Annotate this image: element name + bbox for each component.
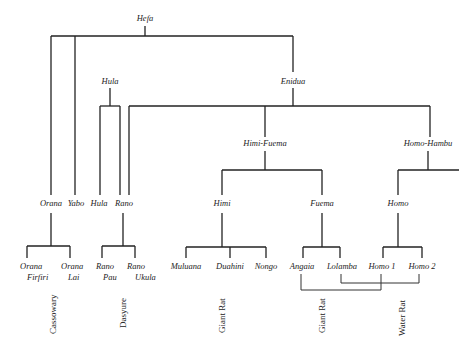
leaf-rano-pau-line1: Rano [95, 261, 114, 271]
group-label-giant-rat-2: Giant Rat [317, 298, 327, 333]
node-homo: Homo [387, 198, 409, 208]
group-label-water-rat: Water Rat [397, 299, 407, 336]
leaf-orana-firfiri-line2: Firfiri [26, 272, 49, 282]
node-hefa: Hefa [136, 13, 154, 23]
node-homo-hambu: Homo-Hambu [403, 138, 453, 148]
fuema-connectors [303, 213, 340, 258]
node-enidua: Enidua [280, 76, 306, 86]
leaf-rano-pau-line2: Pau [102, 272, 117, 282]
group-label-dasyure: Dasyure [118, 298, 128, 328]
node-hula: Hula [90, 198, 108, 208]
node-yabo: Yabo [68, 198, 85, 208]
leaf-muluana: Muluana [170, 261, 202, 271]
hula-connectors [100, 88, 120, 195]
leaf-rano-ukula-line1: Rano [126, 261, 145, 271]
leaf-homo-2: Homo 2 [407, 261, 436, 271]
leaf-lolamba: Lolamba [326, 261, 357, 271]
leaf-nongo: Nongo [254, 261, 278, 271]
group-label-giant-rat-1: Giant Rat [217, 298, 227, 333]
leaf-angaia: Angaia [289, 261, 315, 271]
homo-connectors [383, 213, 422, 258]
node-orana: Orana [40, 198, 62, 208]
node-rano: Rano [114, 198, 133, 208]
orana-connectors [27, 213, 70, 258]
node-himi: Himi [213, 198, 232, 208]
leaf-duahini: Duahini [215, 261, 245, 271]
rano-connectors [102, 213, 135, 258]
homo-hambu-connectors [398, 151, 459, 195]
node-hula-upper: Hula [101, 76, 119, 86]
leaf-rano-ukula-line2: Ukula [135, 272, 156, 282]
group-label-cassowary: Cassowary [48, 294, 58, 334]
himi-connectors [186, 213, 266, 258]
leaf-homo-1: Homo 1 [367, 261, 395, 271]
leaf-orana-lai-line2: Lai [67, 272, 80, 282]
leaf-orana-firfiri-line1: Orana [20, 261, 42, 271]
node-himi-fuema: Himi-Fuema [242, 138, 286, 148]
himi-fuema-connectors [222, 151, 322, 195]
leaf-orana-lai-line1: Orana [61, 261, 83, 271]
cross-link-lolamba-homo2 [341, 274, 419, 283]
node-fuema: Fuema [309, 198, 334, 208]
kinship-tree-diagram: Hefa Hula Enidua Himi-Fuema Homo-Hambu [0, 0, 474, 351]
